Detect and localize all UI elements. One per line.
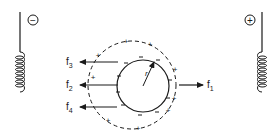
diagram-canvas: − + + + + + + + + + + r — [0, 0, 274, 137]
svg-text:+: + — [124, 37, 129, 46]
right-electrode: + — [245, 12, 267, 92]
left-coil-icon — [16, 52, 25, 92]
svg-text:+: + — [91, 73, 96, 82]
radius-label: r — [145, 69, 148, 78]
svg-text:+: + — [106, 116, 111, 125]
particle-negative-charges — [116, 57, 172, 115]
svg-text:+: + — [166, 106, 171, 115]
left-electrode: − — [16, 12, 39, 92]
svg-text:f3: f3 — [66, 56, 73, 69]
svg-text:f1: f1 — [207, 79, 214, 92]
negative-sign: − — [30, 15, 36, 26]
force-f1: f1 — [179, 79, 214, 92]
right-coil-icon — [258, 52, 267, 92]
svg-text:+: + — [172, 94, 177, 103]
positive-sign: + — [247, 15, 253, 26]
svg-text:+: + — [173, 65, 178, 74]
svg-text:+: + — [136, 124, 141, 133]
svg-text:f2: f2 — [66, 79, 73, 92]
svg-text:+: + — [148, 40, 153, 49]
svg-text:+: + — [96, 51, 101, 60]
svg-text:f4: f4 — [66, 101, 73, 114]
